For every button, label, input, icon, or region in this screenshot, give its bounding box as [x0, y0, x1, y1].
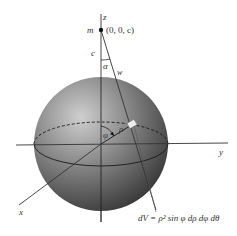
volume-element-formula: dV = ρ² sin φ dρ dφ dθ: [138, 214, 219, 223]
c-label: c: [91, 49, 95, 58]
point-label: (0, 0, c): [106, 26, 134, 35]
phi-label: φ: [103, 131, 108, 140]
sphere-diagram: [0, 0, 237, 236]
w-label: w: [117, 69, 122, 77]
y-axis-label: y: [219, 148, 223, 157]
alpha-label: α: [103, 62, 108, 71]
mass-label: m: [87, 26, 94, 35]
alpha-arc: [101, 59, 110, 60]
z-axis-label: z: [103, 13, 107, 22]
x-axis-label: x: [19, 208, 23, 217]
rho-label: ρ: [119, 125, 123, 134]
mass-point: [99, 28, 103, 32]
